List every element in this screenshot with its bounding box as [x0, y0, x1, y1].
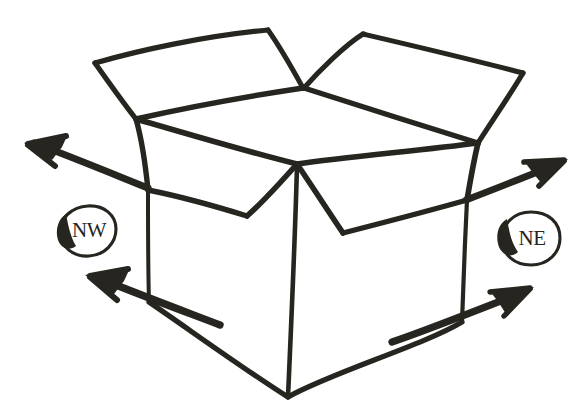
box-sketch-illustration: NW NE — [0, 0, 588, 417]
sketch-canvas: NW NE — [0, 0, 588, 417]
label-nw-text: NW — [72, 218, 107, 242]
label-ne-text: NE — [519, 226, 546, 250]
